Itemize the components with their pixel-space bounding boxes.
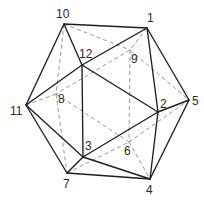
vertex-label-12: 12: [79, 47, 93, 61]
vertex-label-4: 4: [146, 183, 153, 197]
vertex-label-7: 7: [63, 177, 70, 191]
vertex-label-9: 9: [131, 52, 138, 66]
vertex-label-3: 3: [85, 139, 92, 153]
vertex-label-10: 10: [56, 7, 70, 21]
vertex-label-1: 1: [147, 11, 154, 25]
vertex-label-6: 6: [124, 144, 131, 158]
vertex-label-8: 8: [58, 92, 65, 106]
vertex-label-2: 2: [160, 97, 167, 111]
background: [0, 0, 204, 200]
icosahedron-diagram: 123456789101112: [0, 0, 204, 200]
vertex-label-5: 5: [192, 94, 199, 108]
vertex-label-11: 11: [10, 104, 23, 118]
